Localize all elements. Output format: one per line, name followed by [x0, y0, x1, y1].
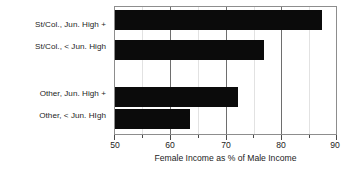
x-tick-label: 50 — [110, 140, 120, 151]
tick-minor — [198, 135, 199, 138]
tick-minor — [253, 135, 254, 138]
category-label: St/Col., Jun. High + — [35, 20, 106, 29]
tick-minor — [142, 135, 143, 138]
category-label: Other, Jun. High + — [40, 89, 106, 98]
bar — [115, 40, 264, 60]
x-axis-tick-labels: 50 60 70 80 90 — [114, 140, 337, 152]
x-axis-title: Female Income as % of Male Income — [114, 153, 337, 164]
x-tick-label: 80 — [276, 140, 286, 151]
bar — [115, 10, 322, 30]
bar — [115, 109, 190, 129]
horizontal-bar-chart: St/Col., Jun. High + St/Col., < Jun. Hig… — [0, 0, 350, 173]
bar — [115, 87, 238, 107]
category-axis-labels: St/Col., Jun. High + St/Col., < Jun. Hig… — [0, 0, 110, 135]
x-tick-label: 70 — [221, 140, 231, 151]
plot-area — [114, 6, 337, 135]
category-label: Other, < Jun. HIgh — [39, 111, 106, 120]
category-label: St/Col., < Jun. High — [35, 42, 106, 51]
x-tick-label: 90 — [330, 140, 340, 151]
x-tick-label: 60 — [165, 140, 175, 151]
tick-minor — [309, 135, 310, 138]
